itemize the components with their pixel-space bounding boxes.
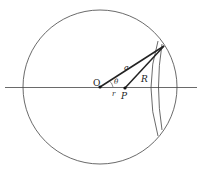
label-point: P (120, 91, 128, 101)
label-distance-R: R (140, 74, 148, 84)
label-origin: O (93, 78, 100, 88)
angle-arc (109, 81, 113, 87)
inner-arc-2 (159, 44, 163, 130)
label-radius-a: a (124, 63, 129, 72)
label-angle-theta: θ (114, 78, 119, 86)
potential-geometry-diagram: O P a R r θ (0, 0, 206, 174)
field-point (123, 86, 126, 89)
label-distance-r: r (112, 90, 116, 98)
